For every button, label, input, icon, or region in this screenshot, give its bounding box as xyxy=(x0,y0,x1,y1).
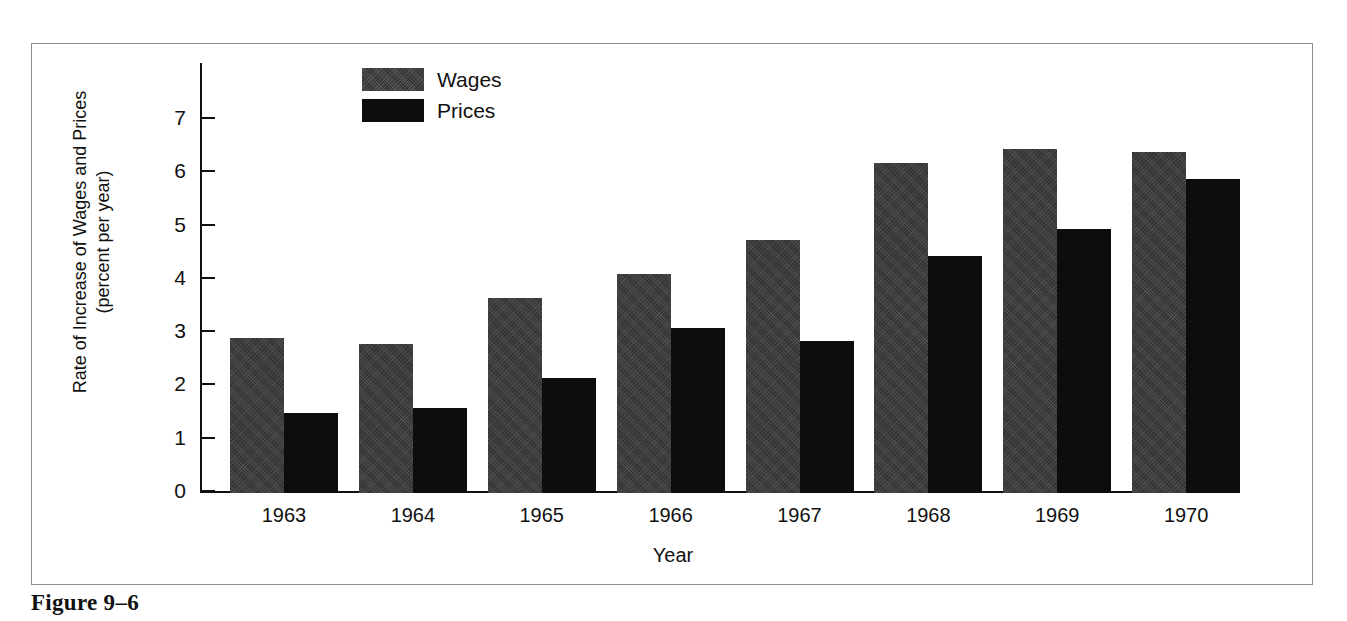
bar-wages-1969 xyxy=(1003,149,1057,493)
y-tick-label-2: 2 xyxy=(152,373,186,394)
chart-legend: Wages Prices xyxy=(362,64,502,126)
y-tick-label-1: 1 xyxy=(152,427,186,448)
bar-wages-1968 xyxy=(874,163,928,493)
y-tick-label-0: 0 xyxy=(152,480,186,501)
legend-swatch-prices-icon xyxy=(362,99,424,122)
bar-prices-1963 xyxy=(284,413,338,493)
y-tick-7 xyxy=(202,117,215,119)
bar-prices-1966 xyxy=(671,328,725,493)
y-tick-label-4: 4 xyxy=(152,267,186,288)
bar-wages-1966 xyxy=(617,274,671,493)
y-tick-4 xyxy=(202,277,215,279)
bar-prices-1964 xyxy=(413,408,467,493)
y-tick-3 xyxy=(202,330,215,332)
y-tick-6 xyxy=(202,170,215,172)
bar-wages-1963 xyxy=(230,338,284,493)
y-tick-0 xyxy=(202,490,215,492)
x-tick-label-1963: 1963 xyxy=(224,504,344,527)
y-tick-label-6: 6 xyxy=(152,160,186,181)
figure-frame: Wages Prices Rate of Increase of Wages a… xyxy=(31,43,1313,585)
y-axis-title: Rate of Increase of Wages and Prices (pe… xyxy=(69,77,115,407)
y-axis-title-line2: (percent per year) xyxy=(92,77,115,407)
x-axis-title: Year xyxy=(32,544,1314,567)
y-tick-2 xyxy=(202,383,215,385)
bar-wages-1965 xyxy=(488,298,542,493)
x-tick-label-1969: 1969 xyxy=(997,504,1117,527)
bar-prices-1967 xyxy=(800,341,854,493)
x-tick-label-1970: 1970 xyxy=(1126,504,1246,527)
y-tick-label-3: 3 xyxy=(152,320,186,341)
x-tick-label-1967: 1967 xyxy=(740,504,860,527)
y-tick-1 xyxy=(202,437,215,439)
bar-prices-1969 xyxy=(1057,229,1111,493)
y-tick-label-7: 7 xyxy=(152,107,186,128)
x-tick-label-1966: 1966 xyxy=(611,504,731,527)
bar-wages-1970 xyxy=(1132,152,1186,493)
bar-prices-1968 xyxy=(928,256,982,493)
y-tick-label-5: 5 xyxy=(152,214,186,235)
bar-wages-1964 xyxy=(359,344,413,493)
bar-wages-1967 xyxy=(746,240,800,493)
bar-prices-1970 xyxy=(1186,179,1240,493)
x-tick-label-1964: 1964 xyxy=(353,504,473,527)
x-tick-label-1968: 1968 xyxy=(868,504,988,527)
legend-item-prices: Prices xyxy=(362,95,502,126)
legend-swatch-wages-icon xyxy=(362,68,424,91)
y-tick-5 xyxy=(202,224,215,226)
figure-caption: Figure 9–6 xyxy=(31,590,139,616)
legend-label-prices: Prices xyxy=(437,99,495,123)
y-axis-title-line1: Rate of Increase of Wages and Prices xyxy=(69,77,92,407)
legend-label-wages: Wages xyxy=(437,68,502,92)
bar-prices-1965 xyxy=(542,378,596,493)
legend-item-wages: Wages xyxy=(362,64,502,95)
chart-plot-area: Wages Prices Rate of Increase of Wages a… xyxy=(32,44,1314,586)
x-tick-label-1965: 1965 xyxy=(482,504,602,527)
